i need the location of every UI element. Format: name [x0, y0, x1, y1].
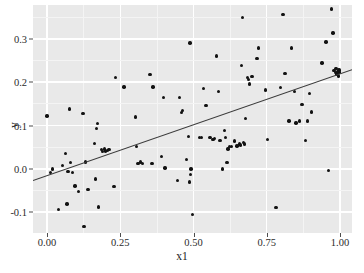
x-tick-label: 0.75 — [258, 237, 276, 248]
x-axis-label: x1 — [0, 250, 364, 262]
y-axis-label: y — [8, 105, 20, 145]
x-tick-label: 0.25 — [111, 237, 129, 248]
x-tick-label: 1.00 — [331, 237, 349, 248]
y-tick-mark — [29, 82, 33, 83]
x-tick-label: 0.50 — [184, 237, 202, 248]
y-tick-label: 0.2 — [14, 77, 27, 88]
x-tick-mark — [340, 233, 341, 237]
y-tick-mark — [29, 38, 33, 39]
x-tick-mark — [47, 233, 48, 237]
x-tick-label: 0.00 — [38, 237, 56, 248]
x-tick-mark — [194, 233, 195, 237]
x-tick-mark — [267, 233, 268, 237]
y-tick-mark — [29, 168, 33, 169]
x-tick-mark — [120, 233, 121, 237]
y-tick-mark — [29, 125, 33, 126]
y-tick-label: -0.1 — [10, 207, 27, 218]
scatter-plot-figure: -0.10.00.10.20.3 0.000.250.500.751.00 x1… — [0, 0, 364, 273]
y-tick-mark — [29, 212, 33, 213]
y-axis: -0.10.00.10.20.3 — [0, 0, 364, 273]
y-tick-label: 0.0 — [14, 163, 27, 174]
y-tick-label: 0.3 — [14, 33, 27, 44]
